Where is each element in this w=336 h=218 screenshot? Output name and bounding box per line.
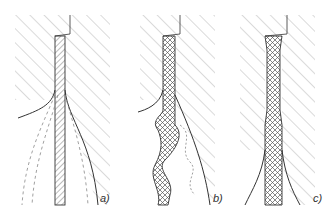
panel-a bbox=[15, 15, 110, 205]
panel-label-c: c) bbox=[313, 192, 322, 204]
panel-c bbox=[240, 15, 315, 205]
panel-label-a: a) bbox=[100, 192, 110, 204]
panel-label-b: b) bbox=[213, 192, 223, 204]
panel-b bbox=[138, 15, 215, 205]
three-panel-diagram bbox=[0, 0, 336, 218]
